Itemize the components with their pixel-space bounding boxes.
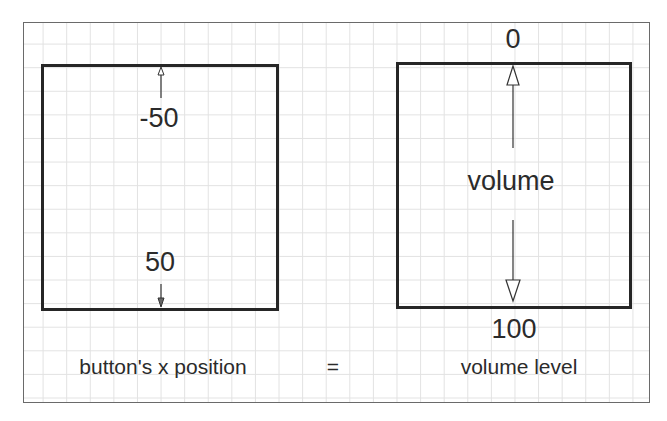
arrow-up-icon [507, 66, 519, 148]
arrow-down-icon [158, 284, 164, 307]
right-top-value: 0 [505, 24, 520, 55]
equals-sign: = [327, 355, 339, 379]
left-bottom-value: 50 [145, 247, 175, 278]
right-center-label: volume [467, 166, 554, 197]
left-caption: button's x position [79, 355, 246, 379]
right-bottom-value: 100 [491, 314, 536, 345]
left-top-value: -50 [139, 103, 178, 134]
arrow-up-icon [158, 67, 164, 98]
arrow-down-icon [506, 220, 520, 301]
right-caption: volume level [461, 355, 578, 379]
